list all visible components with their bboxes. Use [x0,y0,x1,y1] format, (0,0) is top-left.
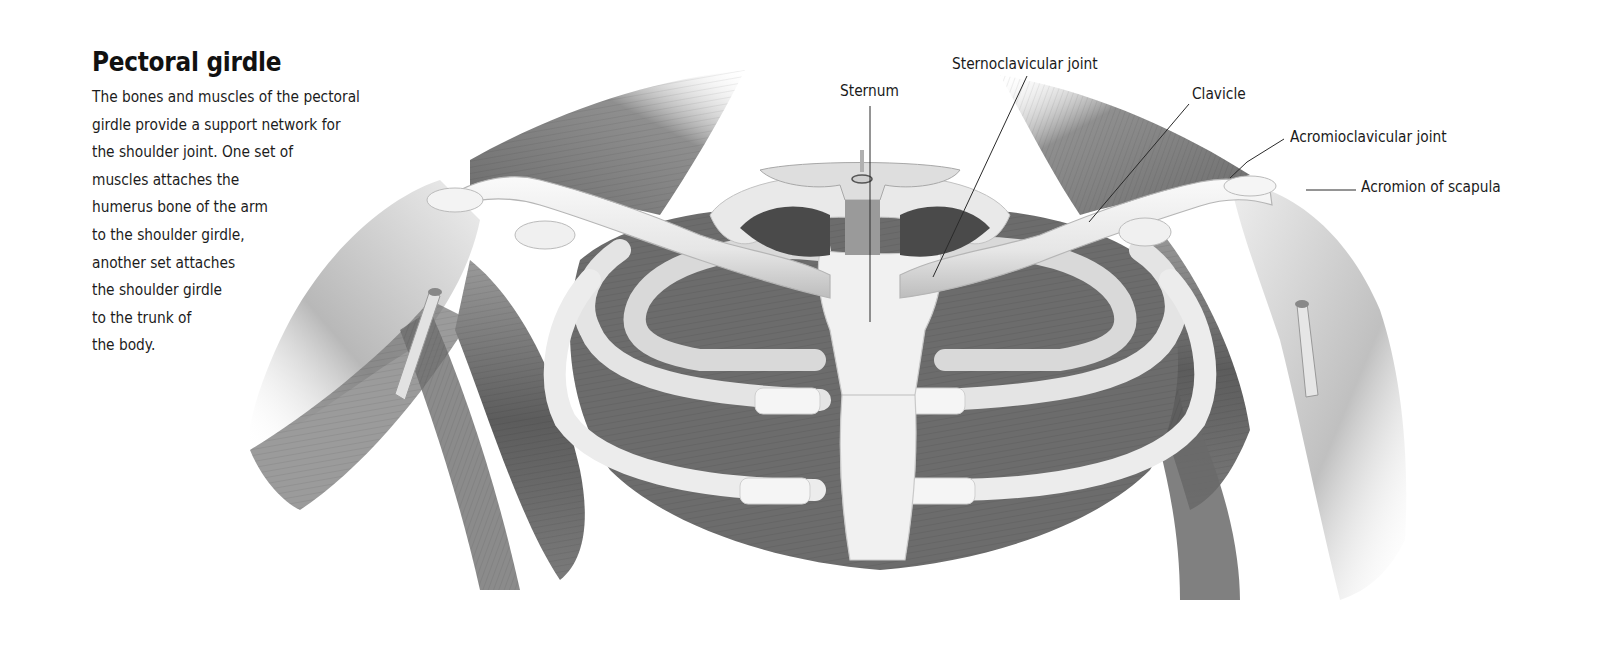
label-sternum: Sternum [840,81,899,100]
label-clavicle: Clavicle [1192,84,1246,103]
coracoid-left [515,221,575,249]
label-acromion-of-scapula: Acromion of scapula [1361,177,1501,196]
pectoral-girdle-illustration [0,0,1601,651]
acromion-right [1224,176,1276,196]
label-sternoclavicular-joint: Sternoclavicular joint [952,54,1098,73]
label-acromioclavicular-joint: Acromioclavicular joint [1290,127,1447,146]
deltoid-right [1230,180,1406,600]
leader-acromioclavicular [1247,139,1284,162]
coracoid-right [1119,218,1171,246]
acromion-left [427,188,483,212]
